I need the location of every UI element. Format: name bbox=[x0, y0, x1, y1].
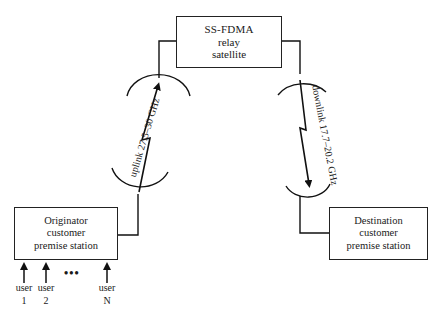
originator-label-3: premise station bbox=[34, 240, 98, 253]
ellipsis: ••• bbox=[64, 266, 80, 281]
destination-station-box: Destination customer premise station bbox=[329, 207, 428, 260]
user-n-id: N bbox=[103, 295, 110, 306]
originator-label-2: customer bbox=[47, 227, 86, 240]
destination-label-1: Destination bbox=[354, 215, 402, 228]
originator-feed bbox=[118, 194, 138, 235]
user-2: user 2 bbox=[31, 281, 61, 307]
downlink-rx-antenna-icon bbox=[286, 184, 330, 197]
user-2-label: user bbox=[38, 282, 55, 293]
satellite-left-feed bbox=[159, 41, 176, 78]
satellite-label-3: satellite bbox=[212, 48, 246, 61]
originator-label-1: Originator bbox=[44, 215, 88, 228]
originator-station-box: Originator customer premise station bbox=[14, 207, 118, 260]
downlink-arrow-icon bbox=[300, 80, 309, 184]
destination-label-2: customer bbox=[359, 227, 398, 240]
user-n-label: user bbox=[99, 282, 116, 293]
satellite-box: SS-FDMA relay satellite bbox=[176, 16, 282, 68]
user-1-label: user bbox=[16, 282, 33, 293]
destination-label-3: premise station bbox=[347, 240, 411, 253]
user-n: user N bbox=[92, 281, 122, 307]
satellite-label-1: SS-FDMA bbox=[204, 23, 253, 36]
user-2-id: 2 bbox=[44, 295, 49, 306]
satellite-right-feed bbox=[282, 41, 300, 74]
satellite-label-2: relay bbox=[218, 36, 240, 49]
destination-feed bbox=[300, 196, 329, 233]
user-1-id: 1 bbox=[22, 295, 27, 306]
